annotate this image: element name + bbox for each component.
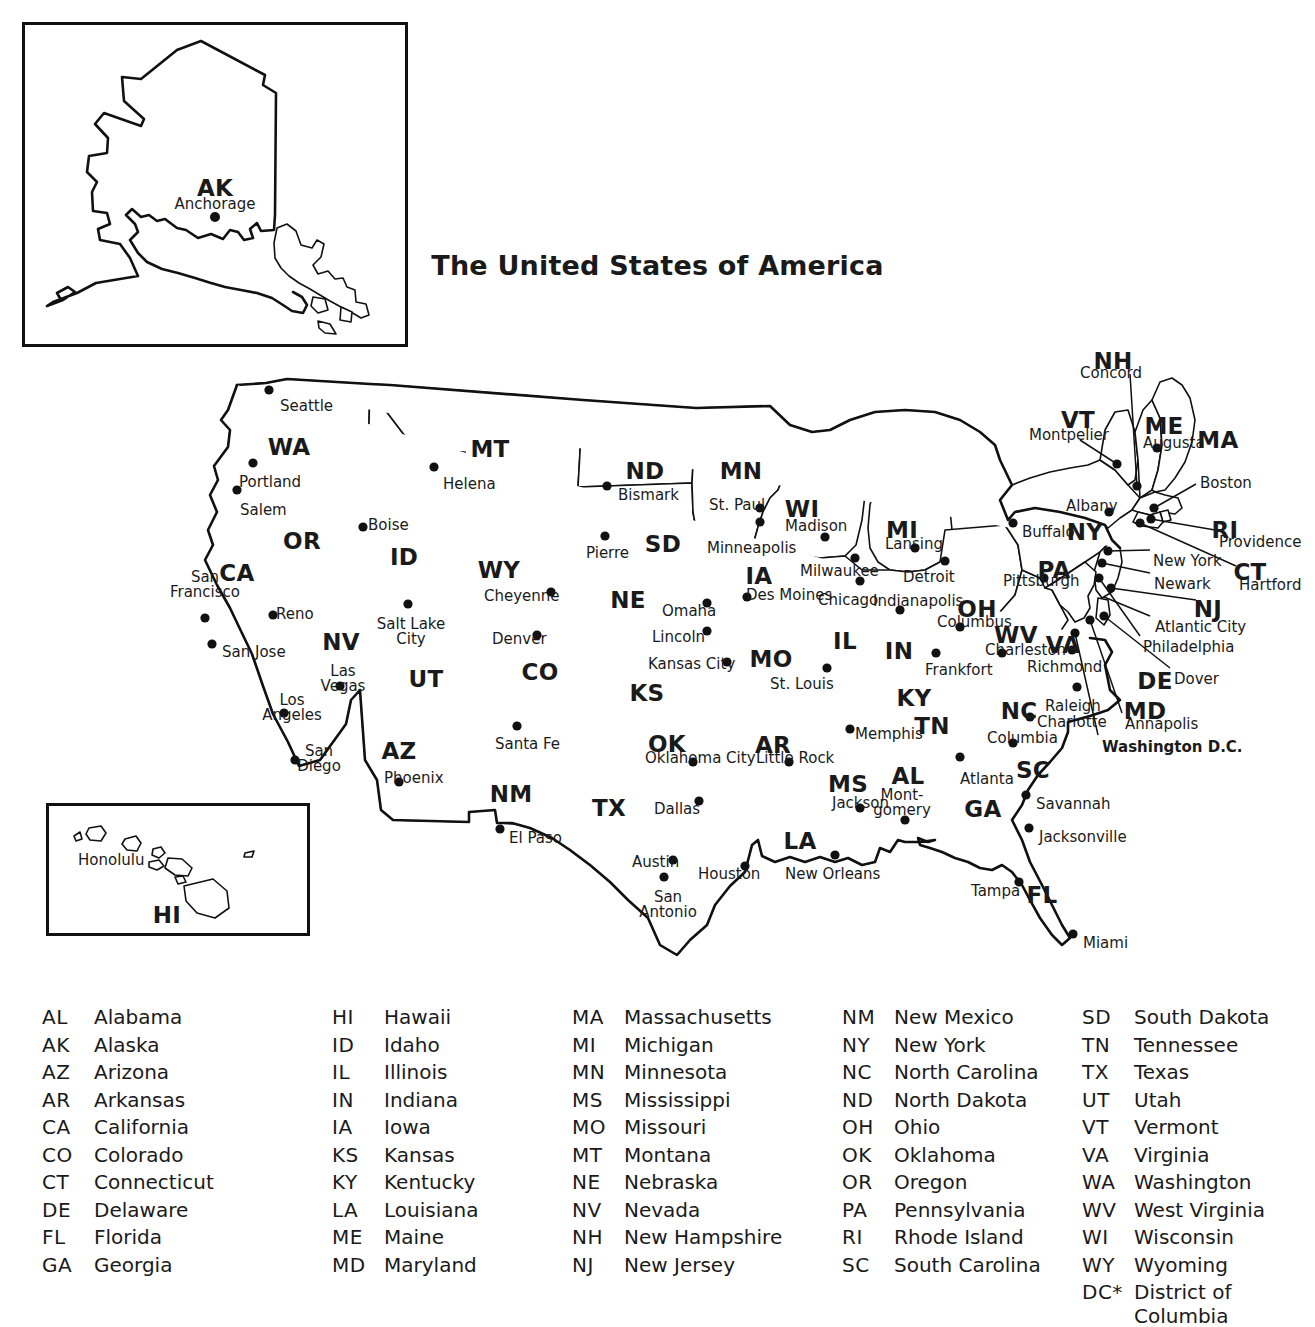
legend-column-3: NMNew MexicoNYNew YorkNCNorth CarolinaND…: [842, 1005, 1082, 1308]
city-label-madison: Madison: [785, 519, 847, 534]
legend-state-name: Georgia: [94, 1253, 332, 1277]
state-abbr-tx: TX: [592, 797, 626, 820]
state-abbr-nc: NC: [1001, 700, 1038, 723]
legend-state-name: Massachusetts: [624, 1005, 842, 1029]
legend-row-hi: HIHawaii: [332, 1005, 572, 1033]
legend-row-ms: MSMississippi: [572, 1088, 842, 1116]
legend-state-name: New Mexico: [894, 1005, 1082, 1029]
legend-abbr: NV: [572, 1198, 624, 1222]
legend-abbr: RI: [842, 1225, 894, 1249]
legend-abbr: OK: [842, 1143, 894, 1167]
legend-row-wv: WVWest Virginia: [1082, 1198, 1315, 1226]
legend-state-name: Wisconsin: [1134, 1225, 1315, 1249]
legend-abbr: SD: [1082, 1005, 1134, 1029]
legend-state-name: Missouri: [624, 1115, 842, 1139]
legend-abbr: TX: [1082, 1060, 1134, 1084]
legend-row-sd: SDSouth Dakota: [1082, 1005, 1315, 1033]
city-label-charlotte: Charlotte: [1037, 715, 1107, 730]
city-dot-portland: [248, 458, 257, 467]
legend-abbr: NY: [842, 1033, 894, 1057]
legend-state-name: Colorado: [94, 1143, 332, 1167]
city-label-detroit: Detroit: [903, 570, 955, 585]
city-label-line2: Francisco: [170, 585, 240, 600]
legend-state-name: Alaska: [94, 1033, 332, 1057]
legend-abbr: VT: [1082, 1115, 1134, 1139]
legend-abbr: TN: [1082, 1033, 1134, 1057]
legend-abbr: MD: [332, 1253, 384, 1277]
legend-abbr: OR: [842, 1170, 894, 1194]
legend-abbr: WI: [1082, 1225, 1134, 1249]
legend-state-name: Arizona: [94, 1060, 332, 1084]
city-label-tampa: Tampa: [971, 884, 1020, 899]
legend-state-name: Utah: [1134, 1088, 1315, 1112]
city-label-los-angeles: LosAngeles: [262, 693, 322, 723]
legend-state-name: Rhode Island: [894, 1225, 1082, 1249]
state-abbr-ia: IA: [746, 565, 773, 588]
city-label-richmond: Richmond: [1027, 660, 1102, 675]
city-dot-montpelier: [1112, 459, 1121, 468]
city-label-augusta: Augusta: [1143, 436, 1205, 451]
city-label-pierre: Pierre: [586, 546, 629, 561]
state-abbr-la: LA: [783, 830, 816, 853]
city-label-little-rock: Little Rock: [756, 751, 834, 766]
legend-abbr: MI: [572, 1033, 624, 1057]
city-label-austin: Austin: [632, 855, 679, 870]
legend-state-name: Maine: [384, 1225, 572, 1249]
legend-abbr: LA: [332, 1198, 384, 1222]
city-label-albany: Albany: [1066, 499, 1118, 514]
city-dot-raleigh: [1072, 682, 1081, 691]
state-abbr-ut: UT: [409, 668, 444, 691]
legend-abbr: NC: [842, 1060, 894, 1084]
legend-row-vt: VTVermont: [1082, 1115, 1315, 1143]
legend-state-name: Texas: [1134, 1060, 1315, 1084]
legend-row-il: ILIllinois: [332, 1060, 572, 1088]
state-abbr-ms: MS: [828, 773, 868, 796]
legend-column-1: HIHawaiiIDIdahoILIllinoisINIndianaIAIowa…: [332, 1005, 572, 1308]
city-dot-dover: [1099, 611, 1108, 620]
legend-state-name: Minnesota: [624, 1060, 842, 1084]
legend-row-ar: ARArkansas: [42, 1088, 332, 1116]
city-dot-memphis: [845, 724, 854, 733]
legend-state-name: Connecticut: [94, 1170, 332, 1194]
legend-row-wy: WYWyoming: [1082, 1253, 1315, 1281]
city-label-jacksonville: Jacksonville: [1039, 830, 1127, 845]
legend-abbr: MO: [572, 1115, 624, 1139]
legend-abbr: OH: [842, 1115, 894, 1139]
legend-abbr: NH: [572, 1225, 624, 1249]
legend-state-name: Ohio: [894, 1115, 1082, 1139]
legend-row-ne: NENebraska: [572, 1170, 842, 1198]
city-label-annapolis: Annapolis: [1125, 717, 1198, 732]
legend-state-name: Montana: [624, 1143, 842, 1167]
city-label-reno: Reno: [276, 607, 314, 622]
city-label-dallas: Dallas: [654, 802, 700, 817]
legend-state-name: South Carolina: [894, 1253, 1082, 1277]
city-dot-salt-lake-city: [403, 599, 412, 608]
legend-abbr: SC: [842, 1253, 894, 1277]
legend-state-name: Wyoming: [1134, 1253, 1315, 1277]
city-label-hartford: Hartford: [1239, 578, 1301, 593]
legend-row-md: MDMaryland: [332, 1253, 572, 1281]
city-label-atlantic-city: Atlantic City: [1155, 620, 1246, 635]
city-label-line2: Diego: [297, 759, 341, 774]
legend-state-name: Nebraska: [624, 1170, 842, 1194]
state-abbr-id: ID: [390, 546, 418, 569]
legend-abbr: ME: [332, 1225, 384, 1249]
legend-row-nm: NMNew Mexico: [842, 1005, 1082, 1033]
city-label-boston: Boston: [1200, 476, 1252, 491]
legend-row-ri: RIRhode Island: [842, 1225, 1082, 1253]
state-abbr-nv: NV: [322, 631, 360, 654]
legend-state-name: Arkansas: [94, 1088, 332, 1112]
city-dot-frankfort: [931, 648, 940, 657]
city-label-oklahoma-city: Oklahoma City: [645, 751, 756, 766]
state-abbreviation-legend: ALAlabamaAKAlaskaAZArizonaARArkansasCACa…: [0, 1005, 1315, 1308]
legend-row-or: OROregon: [842, 1170, 1082, 1198]
city-dot-annapolis: [1085, 615, 1094, 624]
city-dot-detroit: [940, 556, 949, 565]
state-abbr-sc: SC: [1016, 759, 1050, 782]
legend-state-name: Hawaii: [384, 1005, 572, 1029]
state-abbr-mt: MT: [470, 438, 509, 461]
city-label-line2: Vegas: [321, 679, 366, 694]
city-label-new-york: New York: [1153, 554, 1222, 569]
legend-state-name: New Jersey: [624, 1253, 842, 1277]
state-abbr-in: IN: [885, 640, 913, 663]
